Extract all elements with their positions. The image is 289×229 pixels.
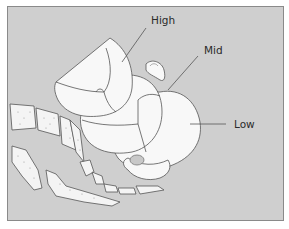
leader-high: [122, 28, 146, 62]
leader-mid: [168, 56, 198, 90]
pelvis-head-station-figure: High Mid Low: [0, 0, 289, 229]
ischium-left: [12, 146, 42, 190]
label-low: Low: [234, 119, 255, 130]
head-high: [55, 38, 133, 116]
label-high: High: [151, 15, 175, 26]
label-mid: Mid: [204, 45, 223, 56]
diagram-drawing: [0, 0, 289, 229]
ear-low: [130, 155, 144, 165]
